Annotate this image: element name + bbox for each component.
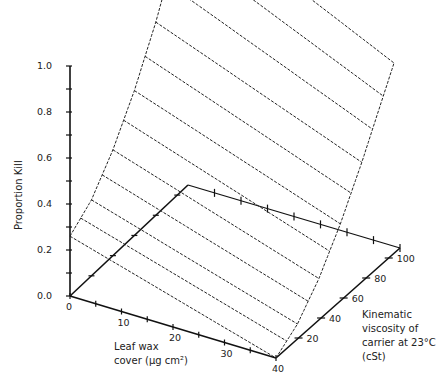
surface-contour-line [177, 0, 383, 96]
x-axis-label-line2: cover (µg cm²) [114, 355, 188, 366]
surface-chart: 0.00.20.40.60.81.0 Proportion Kill 01020… [0, 0, 443, 377]
z-axis [66, 66, 72, 296]
surface-contour-line [102, 175, 308, 301]
z-axis-label: Proportion Kill [13, 160, 24, 230]
y-tick-label: 60 [352, 293, 364, 304]
surface-contour-line [92, 200, 298, 324]
y-axis-label-line4: (cSt) [362, 351, 386, 362]
y-tick-label: 80 [374, 273, 386, 284]
depth-axis-left [70, 185, 188, 296]
x-tick-label: 30 [221, 348, 233, 359]
x-axis-label-line1: Leaf wax [114, 341, 159, 352]
surface-contour-line [134, 91, 340, 224]
surface-contour-line [156, 22, 362, 162]
surface-contour-line [145, 56, 351, 193]
z-tick-label: 0.8 [37, 106, 52, 117]
y-tick-label: 20 [307, 333, 319, 344]
y-axis-label-line2: viscosity of [362, 323, 419, 334]
surface-contour-line [188, 0, 394, 63]
y-tick-label: 40 [329, 313, 341, 324]
y-axis-label-line3: carrier at 23°C [362, 337, 436, 348]
z-tick-label: 1.0 [37, 60, 52, 71]
x-tick-label: 40 [272, 363, 284, 374]
surface-contour-line [124, 120, 330, 251]
z-tick-labels: 0.00.20.40.60.81.0 [37, 60, 52, 301]
y-tick-label: 100 [397, 253, 415, 264]
surface-contour-line [167, 0, 373, 129]
z-tick-label: 0.0 [37, 290, 52, 301]
x-tick-label: 0 [66, 301, 72, 312]
response-surface [70, 0, 394, 358]
x-tick-label: 10 [118, 317, 130, 328]
z-tick-label: 0.6 [37, 152, 52, 163]
x-axis [70, 293, 276, 361]
z-tick-label: 0.2 [37, 244, 52, 255]
surface-contour-line [81, 218, 287, 341]
back-base-edge [188, 185, 400, 252]
x-tick-label: 20 [169, 332, 181, 343]
y-axis-label-line1: Kinematic [362, 309, 412, 320]
z-tick-label: 0.4 [37, 198, 52, 209]
